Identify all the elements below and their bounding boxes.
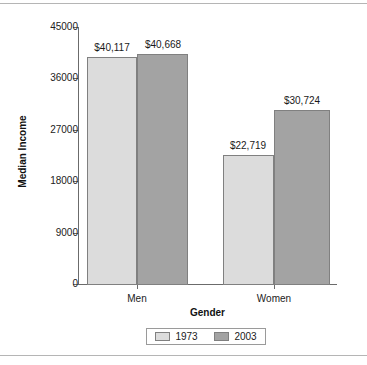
- x-axis-title: Gender: [78, 307, 337, 318]
- y-tick-27000: 27000: [0, 130, 78, 131]
- legend-label-2003: 2003: [234, 332, 256, 342]
- bar-label-men-2003: $40,668: [133, 39, 193, 50]
- legend-swatch-2003-icon: [214, 332, 229, 341]
- bar-women-2003[interactable]: [274, 110, 330, 285]
- y-tick-label-0: 0: [12, 279, 78, 289]
- legend-label-1973: 1973: [175, 332, 197, 342]
- x-tick-label-women: Women: [244, 293, 304, 304]
- y-axis-title: Median Income: [17, 97, 28, 207]
- bar-men-1973[interactable]: [87, 57, 137, 285]
- bar-women-1973[interactable]: [223, 155, 274, 285]
- bar-label-women-2003: $30,724: [272, 95, 332, 106]
- bar-chart: 45000 36000 27000 18000 9000 0 Men Women…: [0, 6, 367, 354]
- legend-swatch-1973-icon: [155, 332, 170, 341]
- y-tick-36000: 36000: [0, 78, 78, 79]
- chart-page: 45000 36000 27000 18000 9000 0 Men Women…: [0, 0, 367, 365]
- page-rule-bottom: [0, 355, 367, 356]
- page-rule-top: [0, 3, 367, 4]
- y-tick-45000: 45000: [0, 27, 78, 28]
- y-tick-18000: 18000: [0, 181, 78, 182]
- y-tick-9000: 9000: [0, 233, 78, 234]
- y-axis-line: [78, 27, 79, 285]
- y-tick-label-45000: 45000: [12, 22, 78, 32]
- legend-item-1973[interactable]: 1973: [155, 332, 197, 342]
- y-tick-label-9000: 9000: [12, 228, 78, 238]
- y-tick-label-36000: 36000: [12, 73, 78, 83]
- x-tick-label-men: Men: [107, 293, 167, 304]
- y-tick-0: 0: [0, 284, 78, 285]
- legend-item-2003[interactable]: 2003: [214, 332, 256, 342]
- bar-label-women-1973: $22,719: [218, 140, 278, 151]
- chart-legend: 1973 2003: [146, 328, 266, 345]
- bar-men-2003[interactable]: [137, 54, 188, 285]
